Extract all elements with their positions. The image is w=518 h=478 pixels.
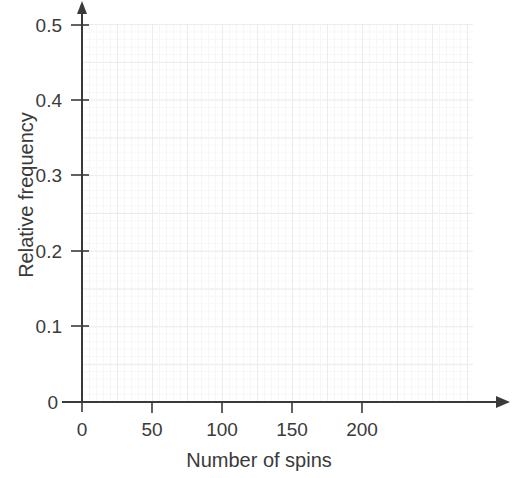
x-tick-label-0: 0 (77, 420, 88, 439)
y-tick-label-1: 0.1 (0, 317, 62, 336)
y-tick-label-5: 0.5 (0, 16, 62, 35)
y-axis-title: Relative frequency (16, 85, 36, 305)
x-tick-label-1: 50 (141, 420, 162, 439)
x-tick-label-3: 150 (276, 420, 308, 439)
chart-container: 0.5 0.4 0.3 0.2 0.1 0 0 50 100 150 200 N… (0, 0, 518, 478)
x-tick-label-2: 100 (206, 420, 238, 439)
x-axis-title: Number of spins (0, 450, 518, 470)
x-tick-label-4: 200 (346, 420, 378, 439)
y-tick-label-0: 0 (0, 393, 58, 412)
plot-grid-area (82, 24, 473, 402)
